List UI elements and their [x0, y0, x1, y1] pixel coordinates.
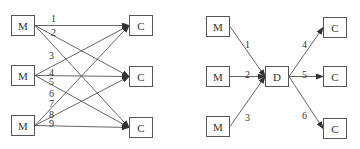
edge-label: 2	[51, 28, 56, 38]
edge-label: 1	[245, 40, 250, 50]
node-c-point-to-point: C	[129, 15, 153, 36]
node-d-hub: D	[265, 66, 289, 87]
node-c-point-to-point: C	[129, 66, 153, 87]
edge-label: 9	[49, 119, 54, 129]
edge-label: 3	[49, 51, 54, 61]
node-m-point-to-point: M	[11, 15, 35, 36]
node-c-hub: C	[323, 66, 347, 87]
edge-label: 6	[302, 111, 307, 121]
edge-label: 1	[51, 14, 56, 24]
node-m-point-to-point: M	[11, 65, 35, 86]
edge-label: 7	[49, 99, 54, 109]
node-m-point-to-point: M	[11, 115, 35, 136]
node-c-hub: C	[323, 17, 347, 38]
node-c-point-to-point: C	[129, 117, 153, 138]
edge-label: 2	[245, 70, 250, 80]
edge-label: 3	[245, 113, 250, 123]
edge-label: 4	[302, 40, 307, 50]
node-m-hub: M	[206, 116, 230, 137]
edge-label: 5	[302, 70, 307, 80]
node-m-hub: M	[206, 16, 230, 37]
node-c-hub: C	[323, 118, 347, 139]
node-m-hub: M	[206, 66, 230, 87]
edge-label: 5	[49, 77, 54, 87]
